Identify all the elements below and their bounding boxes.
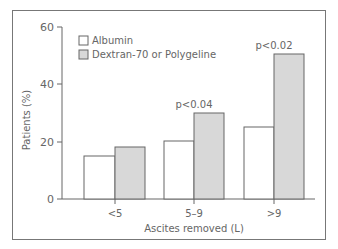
y-tick-label: 20 xyxy=(40,136,54,149)
bar-group-lt5 xyxy=(84,147,145,204)
x-tick-label: <5 xyxy=(108,208,123,219)
x-tick-label: 5–9 xyxy=(185,208,203,219)
x-axis-label: Ascites removed (L) xyxy=(144,223,244,234)
bar-albumin xyxy=(164,141,194,199)
legend-swatch-dextran xyxy=(79,50,88,59)
y-tick-label: 60 xyxy=(40,21,54,34)
y-tick-label: 40 xyxy=(40,78,54,91)
legend-swatch-albumin xyxy=(79,36,88,45)
bar-albumin xyxy=(84,156,115,199)
bar-dextran xyxy=(274,54,304,199)
p-value-annotation: p<0.04 xyxy=(176,99,213,110)
y-axis-label: Patients (%) xyxy=(21,90,32,151)
legend-label: Dextran-70 or Polygeline xyxy=(92,49,216,60)
bar-dextran xyxy=(194,113,224,199)
p-value-annotation: p<0.02 xyxy=(256,40,293,51)
bar-albumin xyxy=(244,127,274,199)
y-ticks: 0 20 40 60 xyxy=(40,21,62,206)
bar-group-gt9 xyxy=(244,54,304,204)
bar-chart: 0 20 40 60 Patients (%) p<0.04 p<0.02 <5… xyxy=(0,0,338,249)
y-tick-label: 0 xyxy=(47,193,54,206)
bar-dextran xyxy=(115,147,145,199)
x-tick-label: >9 xyxy=(267,208,282,219)
bar-group-5to9 xyxy=(164,113,224,204)
legend: Albumin Dextran-70 or Polygeline xyxy=(79,35,216,60)
legend-label: Albumin xyxy=(92,35,133,46)
